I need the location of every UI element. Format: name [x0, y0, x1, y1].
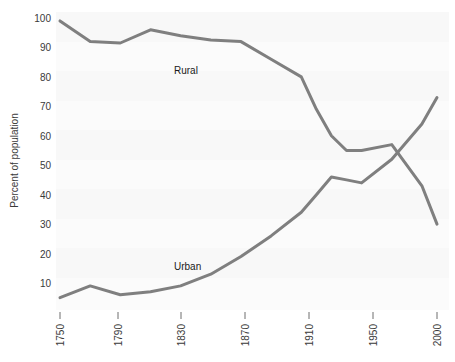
x-tick-label: 1790 — [113, 324, 124, 347]
y-axis-tick-labels: 100 90 80 70 60 50 40 30 20 10 — [34, 13, 51, 289]
x-tick-label: 1870 — [240, 324, 251, 347]
chart-container: 100 90 80 70 60 50 40 30 20 10 1750 1790… — [0, 0, 455, 362]
x-tick-label: 1950 — [368, 324, 379, 347]
y-tick-label: 20 — [40, 249, 52, 260]
y-tick-label: 50 — [40, 160, 52, 171]
y-tick-label: 10 — [40, 278, 52, 289]
y-tick-label: 100 — [34, 13, 51, 24]
x-tick-label: 1750 — [55, 324, 66, 347]
x-tick-label: 2000 — [432, 324, 443, 347]
y-tick-label: 30 — [40, 219, 52, 230]
x-axis-tick-labels: 1750 1790 1830 1870 1910 1950 2000 — [55, 324, 443, 347]
x-tick-label: 1910 — [304, 324, 315, 347]
series-label-urban: Urban — [174, 261, 201, 272]
y-tick-label: 90 — [40, 42, 52, 53]
series-label-rural: Rural — [174, 65, 198, 76]
y-tick-label: 60 — [40, 131, 52, 142]
x-axis-ticks — [60, 312, 437, 319]
y-tick-label: 80 — [40, 72, 52, 83]
line-chart: 100 90 80 70 60 50 40 30 20 10 1750 1790… — [0, 0, 455, 362]
y-tick-label: 70 — [40, 101, 52, 112]
y-tick-label: 40 — [40, 190, 52, 201]
y-axis-title: Percent of population — [9, 101, 20, 221]
x-tick-label: 1830 — [176, 324, 187, 347]
